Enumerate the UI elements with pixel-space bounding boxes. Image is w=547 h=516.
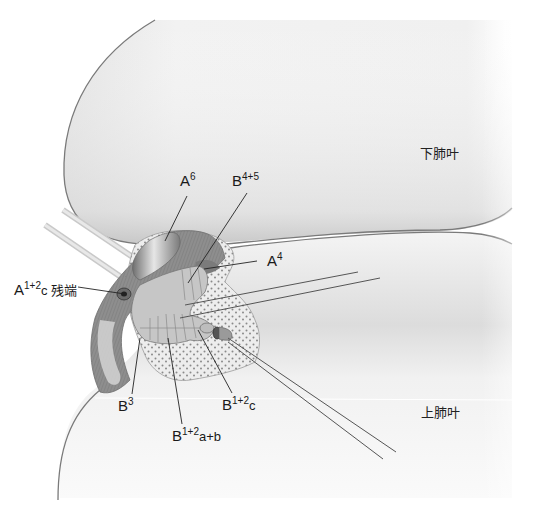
label-b12ab: B1+2a+b bbox=[172, 427, 221, 443]
label-b45-base: B bbox=[232, 172, 242, 189]
label-a12c-suffix: c 残端 bbox=[41, 283, 77, 298]
label-a12c-sup: 1+2 bbox=[24, 280, 41, 291]
label-b45-sup: 4+5 bbox=[242, 171, 259, 182]
label-b12c-suffix: c bbox=[249, 398, 256, 413]
label-b3-sup: 3 bbox=[128, 396, 134, 407]
label-b45: B4+5 bbox=[232, 172, 259, 188]
label-b12c-base: B bbox=[222, 396, 232, 413]
label-b12ab-sup: 1+2 bbox=[182, 426, 199, 437]
label-b3: B3 bbox=[118, 397, 134, 413]
label-a4-sup: 4 bbox=[277, 251, 283, 262]
label-a12c-stump: A1+2c 残端 bbox=[14, 281, 77, 297]
label-a12c-base: A bbox=[14, 281, 24, 298]
label-lower-lobe: 下肺叶 bbox=[420, 143, 459, 162]
label-a4-base: A bbox=[267, 252, 277, 269]
label-a6-sup: 6 bbox=[190, 171, 196, 182]
label-b3-base: B bbox=[118, 397, 128, 414]
label-b12c: B1+2c bbox=[222, 396, 255, 412]
label-a4: A4 bbox=[267, 252, 283, 268]
label-upper-lobe: 上肺叶 bbox=[421, 402, 460, 421]
label-b12ab-suffix: a+b bbox=[199, 429, 221, 444]
label-b12ab-base: B bbox=[172, 427, 182, 444]
label-a6-base: A bbox=[180, 172, 190, 189]
label-a6: A6 bbox=[180, 172, 196, 188]
label-b12c-sup: 1+2 bbox=[232, 395, 249, 406]
